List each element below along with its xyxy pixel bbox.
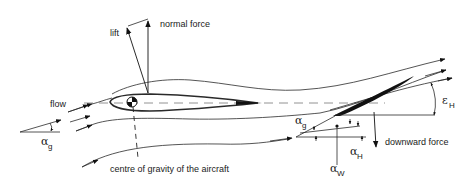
label-alpha-g-tail: α g	[295, 114, 306, 130]
streamlines	[68, 59, 452, 167]
svg-text:H: H	[449, 101, 455, 110]
streamline-3	[70, 116, 90, 122]
label-downward-force: downward force	[385, 137, 449, 147]
label-epsilon-h: ε H	[442, 94, 455, 110]
downward-force-arrow	[374, 112, 376, 147]
flow-angle-annotation	[20, 120, 61, 132]
force-connector	[128, 19, 148, 26]
svg-text:W: W	[337, 169, 345, 178]
streamline-6	[330, 78, 452, 110]
label-alpha-g-flow: α g	[41, 135, 52, 151]
svg-text:g: g	[302, 121, 306, 130]
downwash-diagram: lift normal force flow centre of gravity…	[0, 0, 466, 191]
label-alpha-h: α H	[350, 145, 363, 161]
svg-text:ε: ε	[442, 94, 448, 107]
label-centre-of-gravity: centre of gravity of the aircraft	[110, 164, 230, 174]
cg-leader-line	[133, 107, 138, 158]
label-lift: lift	[110, 28, 119, 38]
force-vectors	[127, 19, 148, 93]
horizontal-tail	[333, 76, 414, 116]
svg-text:g: g	[48, 142, 52, 151]
label-normal-force: normal force	[160, 19, 210, 29]
centre-of-gravity-symbol	[127, 97, 137, 107]
tail-angle-construction	[296, 83, 435, 165]
lift-arrow	[127, 28, 148, 93]
label-flow: flow	[50, 99, 67, 109]
svg-text:H: H	[357, 152, 363, 161]
streamline-5	[82, 139, 288, 167]
label-alpha-w: α W	[330, 162, 345, 178]
